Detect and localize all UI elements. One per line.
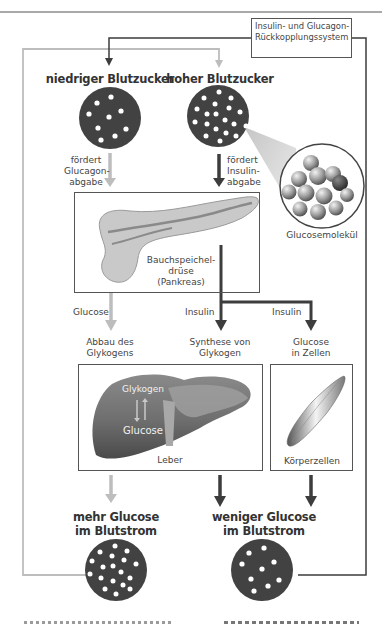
insulin-arrow-label-synthesis: Insulin [185,307,214,318]
glycogen-breakdown-label: Abbau des Glykogens [75,337,145,359]
feedback-system-box: Insulin- und Glucagon- Rückkopplungssyst… [251,18,352,58]
liver-glucose-label: Glucose [118,425,168,436]
glucose-arrow-label: Glucose [73,307,109,318]
glucagon-release-label: fördert Glucagon- abgabe [64,155,108,188]
less-glucose-circle [231,539,293,601]
body-cells-box [270,364,353,471]
more-glucose-circle [85,539,147,601]
feedback-label-line2: Rückkopplungssystem [255,32,348,43]
insulin-arrow-label-uptake: Insulin [272,307,301,318]
high-sugar-circle [187,85,249,147]
glucose-into-cells-label: Glucose in Zellen [283,337,339,359]
glucose-molecule-label: Glucosemolekül [276,230,368,241]
more-glucose-title: mehr Glucose im Blutstrom [60,510,172,538]
pancreas-label: Bauchspeichel- drüse (Pankreas) [146,255,216,288]
glucose-molecule-illustration [280,144,364,228]
body-cells-label: Körperzellen [272,456,352,467]
insulin-release-label: fördert Insulin- abgabe [227,155,261,188]
low-sugar-circle [79,87,141,149]
clipped-caption [0,616,382,624]
low-blood-sugar-title: niedriger Blutzucker [40,72,180,86]
liver-label: Leber [150,455,190,466]
liver-glycogen-label: Glykogen [118,384,168,395]
glycogen-synthesis-label: Synthese von Glykogen [182,337,258,359]
feedback-label-line1: Insulin- und Glucagon- [255,21,348,32]
less-glucose-title: weniger Glucose im Blutstrom [205,510,323,538]
high-blood-sugar-title: hoher Blutzucker [160,72,280,86]
